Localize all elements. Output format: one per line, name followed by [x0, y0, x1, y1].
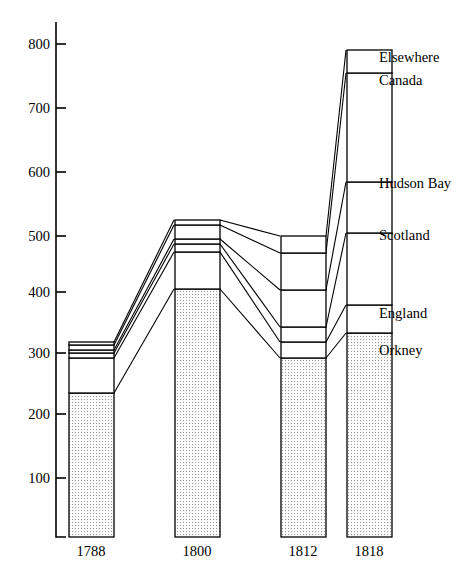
- series-label-scotland: Scotland: [379, 228, 430, 243]
- series-label-england: England: [379, 306, 427, 321]
- x-tick-label-1818: 1818: [334, 544, 404, 559]
- x-tick-label-1800: 1800: [162, 544, 232, 559]
- y-tick-label-300: 300: [0, 346, 50, 361]
- y-tick-label-600: 600: [0, 165, 50, 180]
- chart-container: 800 700 600 500 400 300 200 100 1788 180…: [0, 0, 470, 568]
- y-tick-label-100: 100: [0, 471, 50, 486]
- y-axis: [56, 22, 66, 537]
- bar-1818: [347, 50, 392, 537]
- y-tick-label-800: 800: [0, 37, 50, 52]
- x-tick-label-1788: 1788: [56, 544, 126, 559]
- bar-1788: [69, 342, 114, 537]
- series-label-canada: Canada: [379, 73, 422, 88]
- y-tick-label-400: 400: [0, 285, 50, 300]
- series-label-hudson-bay: Hudson Bay: [379, 176, 451, 191]
- bar-1800: [175, 220, 220, 537]
- bar-1812: [281, 236, 326, 537]
- series-label-orkney: Orkney: [379, 343, 423, 358]
- y-tick-label-500: 500: [0, 229, 50, 244]
- y-axis-ticks: [56, 44, 66, 478]
- x-tick-label-1812: 1812: [268, 544, 338, 559]
- series-label-elsewhere: Elsewhere: [379, 50, 439, 65]
- y-tick-label-700: 700: [0, 101, 50, 116]
- y-tick-label-200: 200: [0, 407, 50, 422]
